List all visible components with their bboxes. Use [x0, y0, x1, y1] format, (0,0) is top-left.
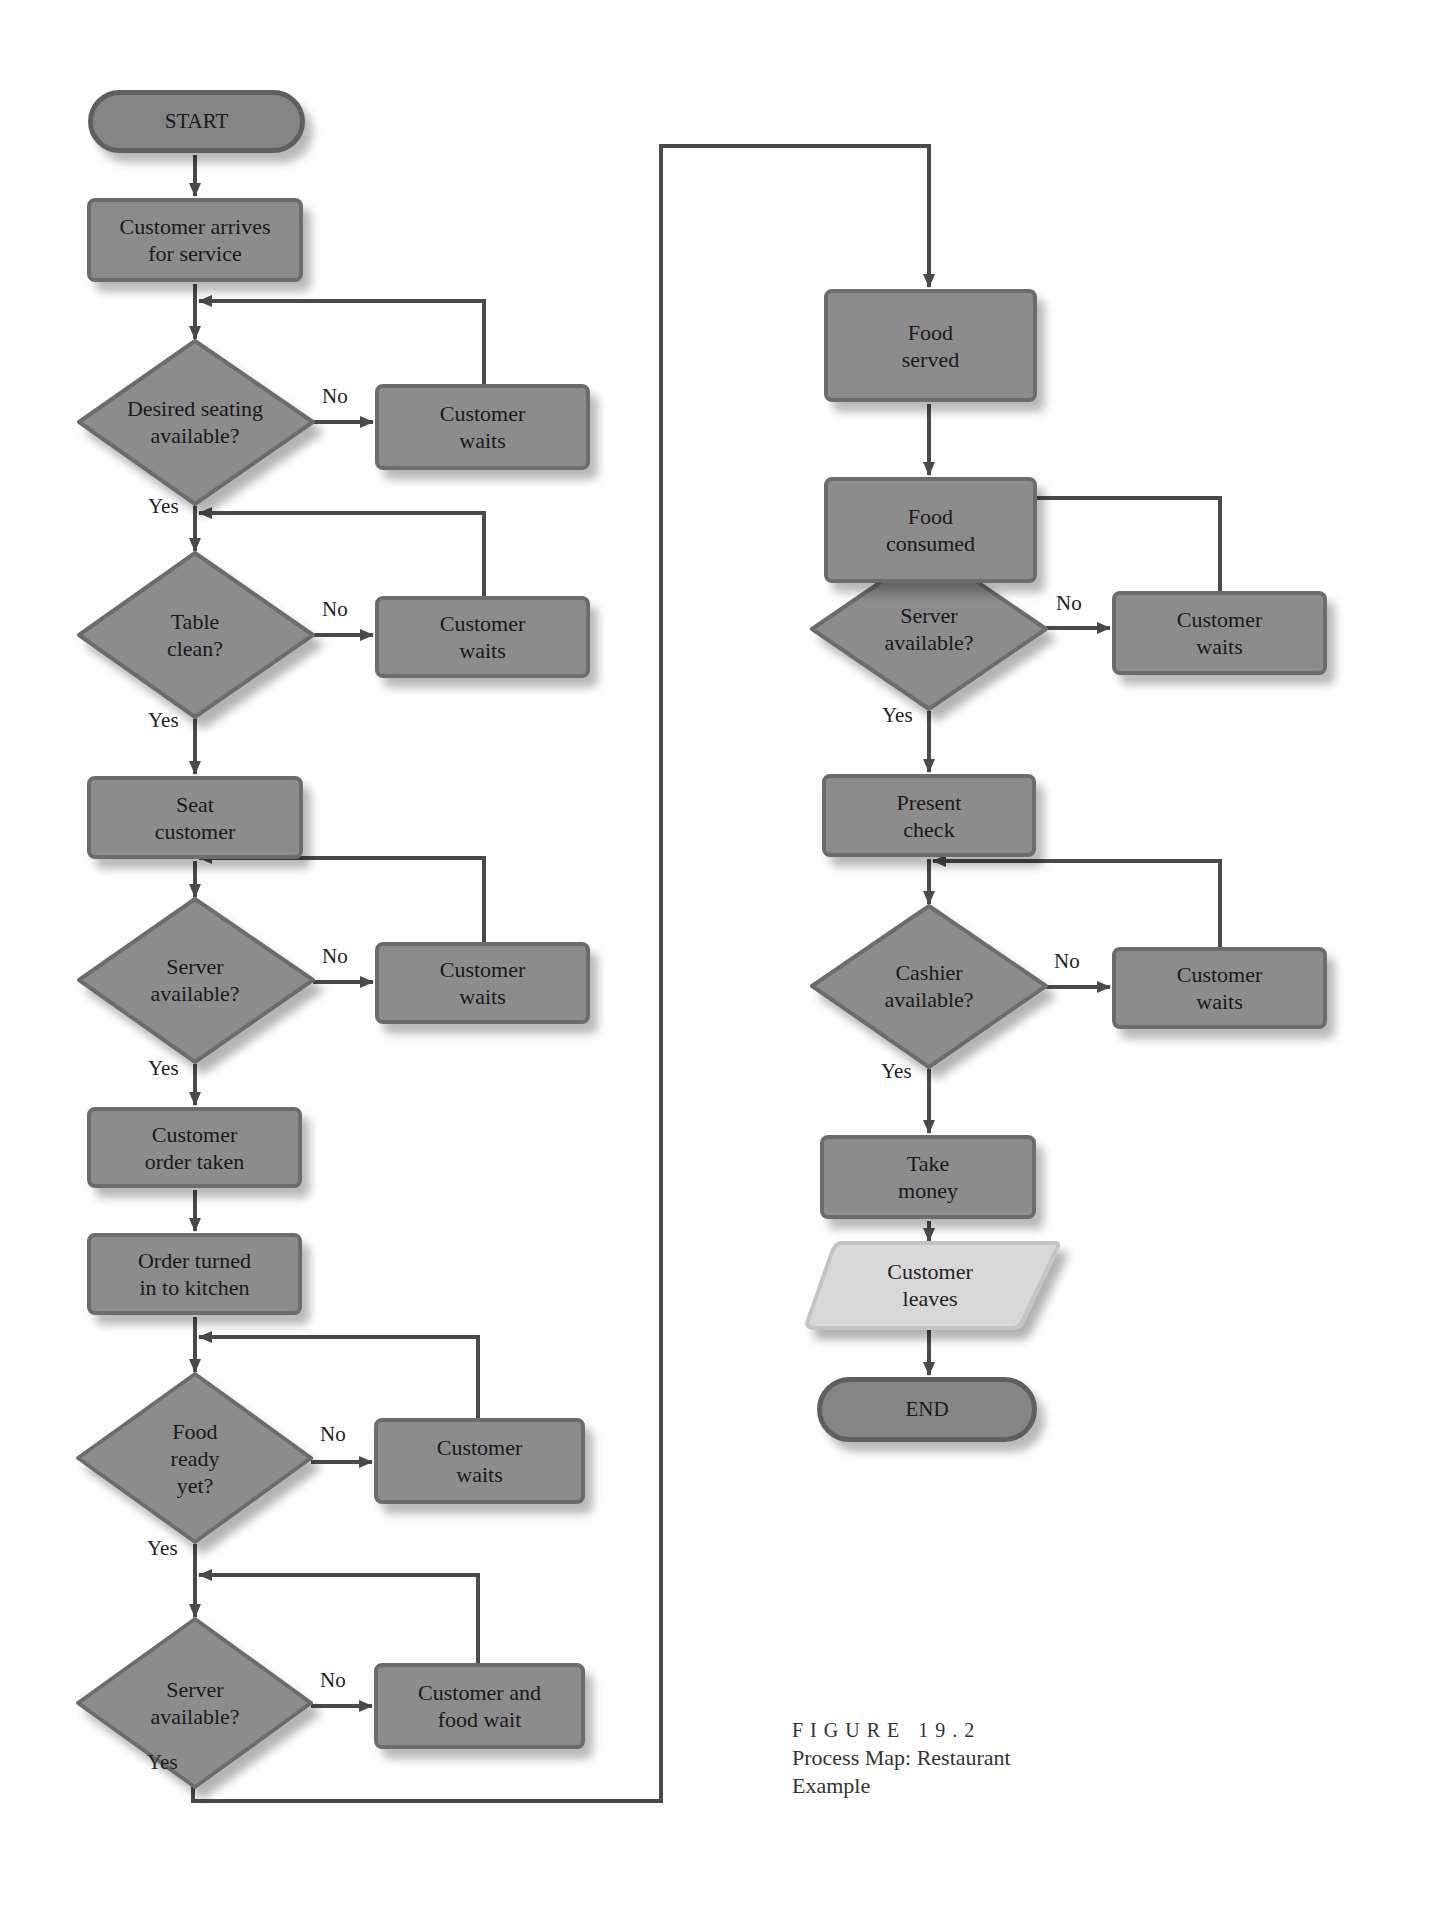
end-label: END: [905, 1396, 948, 1423]
no-label: No: [1054, 949, 1080, 974]
yes-label: Yes: [148, 708, 179, 733]
process-table-wait: Customer waits: [375, 596, 590, 678]
yes-label: Yes: [148, 1056, 179, 1081]
process-label: Customer arrives for service: [120, 213, 271, 267]
decision-table-label: Table clean?: [95, 605, 295, 665]
process-seating-wait: Customer waits: [375, 384, 590, 470]
process-label: Customer waits: [1177, 961, 1263, 1015]
process-take-money: Take money: [820, 1135, 1036, 1219]
process-label: Customer waits: [440, 400, 526, 454]
process-label: Customer waits: [440, 610, 526, 664]
process-label: Customer waits: [440, 956, 526, 1010]
process-label: Food served: [902, 319, 959, 373]
start-label: START: [165, 108, 229, 135]
process-label: Customer order taken: [145, 1121, 245, 1175]
process-label: Take money: [898, 1150, 958, 1204]
figure-number: FIGURE 19.2: [792, 1716, 1011, 1744]
yes-label: Yes: [881, 1059, 912, 1084]
process-label: Food consumed: [886, 503, 975, 557]
process-food-wait: Customer waits: [374, 1418, 585, 1504]
no-label: No: [322, 944, 348, 969]
process-label: Customer waits: [1177, 606, 1263, 660]
yes-label: Yes: [147, 1536, 178, 1561]
process-food-served: Food served: [824, 289, 1037, 402]
io-customer-leaves-label: Customer leaves: [830, 1255, 1030, 1315]
process-seat-customer: Seat customer: [87, 776, 303, 859]
process-present-check: Present check: [822, 774, 1036, 857]
figure-title-line-1: Process Map: Restaurant: [792, 1744, 1011, 1772]
decision-server-1-label: Server available?: [95, 950, 295, 1010]
process-customer-arrives: Customer arrives for service: [87, 198, 303, 282]
no-label: No: [1056, 591, 1082, 616]
decision-server-3-label: Server available?: [829, 599, 1029, 659]
yes-label: Yes: [882, 703, 913, 728]
process-label: Present check: [897, 789, 962, 843]
process-label: Seat customer: [155, 791, 236, 845]
process-label: Customer waits: [437, 1434, 523, 1488]
decision-food-label: Food ready yet?: [95, 1415, 295, 1501]
process-server-wait-3: Customer waits: [1112, 591, 1327, 675]
figure-caption: FIGURE 19.2 Process Map: Restaurant Exam…: [792, 1716, 1011, 1800]
process-label: Customer and food wait: [418, 1679, 541, 1733]
decision-cashier-label: Cashier available?: [829, 956, 1029, 1016]
process-food-consumed: Food consumed: [824, 477, 1037, 583]
process-label: Order turned in to kitchen: [138, 1247, 251, 1301]
yes-label: Yes: [148, 494, 179, 519]
decision-server-2-label: Server available?: [95, 1673, 295, 1733]
no-label: No: [320, 1668, 346, 1693]
decision-seating-label: Desired seating available?: [95, 392, 295, 452]
no-label: No: [322, 384, 348, 409]
process-customer-food-wait: Customer and food wait: [374, 1663, 585, 1749]
process-order-kitchen: Order turned in to kitchen: [87, 1233, 302, 1315]
yes-label: Yes: [147, 1750, 178, 1775]
no-label: No: [320, 1422, 346, 1447]
start-terminal: START: [88, 90, 305, 153]
no-label: No: [322, 597, 348, 622]
figure-title-line-2: Example: [792, 1772, 1011, 1800]
process-server-wait-1: Customer waits: [375, 942, 590, 1024]
process-cashier-wait: Customer waits: [1112, 947, 1327, 1029]
process-order-taken: Customer order taken: [87, 1107, 302, 1188]
end-terminal: END: [817, 1377, 1037, 1442]
